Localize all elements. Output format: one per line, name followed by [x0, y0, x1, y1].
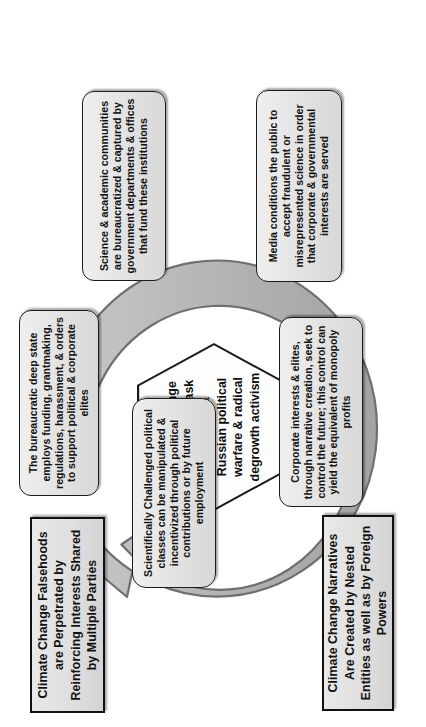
node-deep-state-label: The bureaucratic deep state employs fund…	[27, 316, 92, 490]
node-political-classes-label: Scientifically Challenged political clas…	[142, 404, 207, 582]
node-political-classes: Scientifically Challenged political clas…	[132, 398, 216, 588]
node-corporate-interests-label: Corporate interests & elites, through na…	[289, 323, 354, 501]
node-deep-state: The bureaucratic deep state employs fund…	[19, 310, 99, 496]
title-box-bottom: Climate Change Narratives Are Created by…	[322, 515, 394, 711]
diagram-canvas: Climate change narratives mask Chinese &…	[0, 0, 426, 727]
title-bottom-label: Climate Change Narratives Are Created by…	[325, 522, 391, 704]
node-media-label: Media conditions the public to accept fr…	[267, 96, 332, 276]
node-media: Media conditions the public to accept fr…	[256, 90, 342, 282]
node-science-academia: Science & academic communities are burea…	[82, 91, 166, 281]
node-corporate-interests: Corporate interests & elites, through na…	[279, 317, 363, 507]
title-top-label: Climate Change Falsehoods are Perpetrate…	[35, 524, 101, 706]
title-box-top: Climate Change Falsehoods are Perpetrate…	[30, 517, 105, 713]
node-science-academia-label: Science & academic communities are burea…	[98, 97, 150, 275]
